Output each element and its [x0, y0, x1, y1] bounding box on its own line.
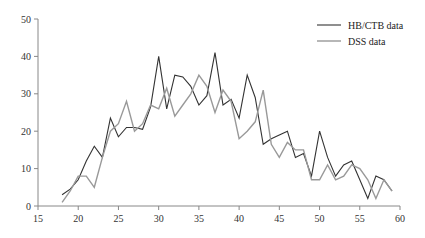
legend: HB/CTB dataDSS data	[317, 20, 404, 47]
line-chart: 01020304050 15202530354045505560 HB/CTB …	[0, 0, 425, 238]
legend-label: DSS data	[348, 36, 386, 47]
y-tick-label: 20	[21, 126, 31, 137]
y-tick-label: 10	[21, 163, 31, 174]
legend-label: HB/CTB data	[348, 20, 404, 31]
x-tick-label: 60	[395, 213, 405, 224]
x-tick-label: 35	[194, 213, 204, 224]
y-tick-label: 0	[26, 201, 31, 212]
x-tick-label: 40	[234, 213, 244, 224]
x-ticks: 15202530354045505560	[33, 206, 405, 224]
x-tick-label: 50	[315, 213, 325, 224]
x-tick-label: 55	[355, 213, 365, 224]
series-line-dss	[62, 75, 392, 202]
y-tick-label: 50	[21, 14, 31, 25]
y-ticks: 01020304050	[21, 14, 38, 212]
y-tick-label: 30	[21, 88, 31, 99]
x-tick-label: 25	[113, 213, 123, 224]
x-tick-label: 45	[274, 213, 284, 224]
y-tick-label: 40	[21, 51, 31, 62]
x-tick-label: 15	[33, 213, 43, 224]
x-tick-label: 20	[73, 213, 83, 224]
data-series	[62, 53, 392, 203]
x-tick-label: 30	[154, 213, 164, 224]
